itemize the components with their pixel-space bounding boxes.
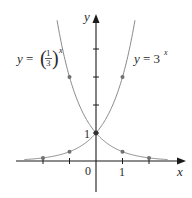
exponent: x (163, 48, 168, 57)
exponential-graph: y x 0 1 1 y = ( 1 3 ) x y = 3 x (0, 0, 192, 198)
data-point (68, 75, 72, 79)
x-tick-label-1: 1 (119, 165, 125, 179)
label-three-pow-x: y = 3 x (132, 48, 168, 66)
label-one-third-pow-x: y = ( 1 3 ) x (15, 46, 63, 70)
data-point (121, 150, 125, 154)
data-point (147, 156, 151, 160)
svg-text:y = 3: y = 3 (132, 51, 160, 66)
paren-close: ) (52, 47, 59, 70)
exponent: x (58, 46, 63, 55)
y-axis-arrow-icon (93, 14, 100, 23)
curve-three-pow-x (24, 20, 135, 159)
x-axis-label: x (176, 164, 183, 179)
fraction-denominator: 3 (46, 58, 51, 68)
origin-label: 0 (85, 164, 91, 178)
data-point (68, 150, 72, 154)
svg-text:y =: y = (15, 51, 33, 66)
data-point (94, 131, 99, 136)
y-axis-label: y (82, 9, 90, 24)
fraction-numerator: 1 (46, 48, 51, 58)
axes (16, 14, 186, 192)
curve-one-third-pow-x (57, 20, 168, 159)
y-tick-label-1: 1 (84, 127, 90, 141)
data-point (41, 156, 45, 160)
data-point (121, 75, 125, 79)
